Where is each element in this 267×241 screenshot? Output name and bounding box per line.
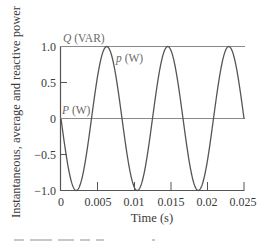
- x-tick-label: 0.02: [197, 195, 218, 209]
- y-tick-label: 0.5: [41, 76, 56, 90]
- y-tick-label: 0: [50, 112, 56, 126]
- q-var-label: Q (VAR): [63, 32, 105, 45]
- x-tick-label: 0.01: [124, 195, 145, 209]
- x-tick-label: 0.005: [85, 195, 112, 209]
- x-tick-label: 0.025: [230, 195, 257, 209]
- y-tick-label: 1.0: [41, 40, 56, 54]
- x-ticks: [98, 182, 245, 190]
- x-tick-label: 0: [58, 195, 64, 209]
- x-tick-labels: 0 0.005 0.01 0.015 0.02 0.025: [58, 195, 257, 209]
- power-chart: 1.0 0.5 0 −0.5 −1.0 0 0.005 0.01 0.015 0…: [0, 0, 267, 241]
- x-axis-title: Time (s): [131, 211, 173, 225]
- x-tick-label: 0.015: [158, 195, 185, 209]
- p-instantaneous-label: p (W): [115, 52, 143, 65]
- y-axis-title: Instantaneous, average and reactive powe…: [9, 5, 23, 218]
- y-tick-label: −1.0: [34, 184, 56, 198]
- y-tick-labels: 1.0 0.5 0 −0.5 −1.0: [34, 40, 56, 198]
- p-average-label: P (W): [61, 104, 91, 117]
- y-tick-label: −0.5: [34, 148, 56, 162]
